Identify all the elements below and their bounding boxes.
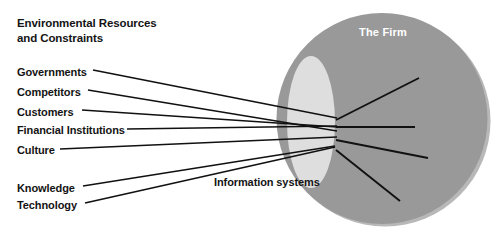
information-systems-label: Information systems — [214, 176, 320, 188]
input-label-governments: Governments — [17, 66, 87, 79]
page-title: Environmental Resources and Constraints — [17, 16, 157, 46]
focal-ellipse-group — [287, 56, 335, 188]
firm-label: The Firm — [359, 26, 407, 38]
input-label-culture: Culture — [17, 144, 55, 157]
input-label-technology: Technology — [17, 199, 77, 212]
input-label-financial-institutions: Financial Institutions — [17, 124, 125, 137]
page-title-line-2: and Constraints — [17, 31, 157, 46]
input-label-competitors: Competitors — [17, 86, 81, 99]
input-label-customers: Customers — [17, 106, 74, 119]
information-systems-lens — [287, 56, 335, 188]
page-title-line-1: Environmental Resources — [17, 16, 157, 31]
firm-environment-diagram: Environmental Resources and Constraints … — [0, 0, 502, 236]
input-label-knowledge: Knowledge — [17, 182, 75, 195]
